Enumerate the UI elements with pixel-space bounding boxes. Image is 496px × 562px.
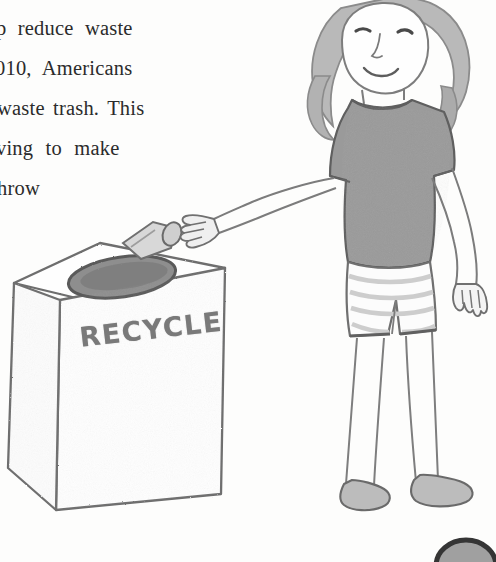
right-hand-fingers: [462, 290, 480, 308]
can-body: [123, 222, 176, 259]
corner-partial-circle: [436, 540, 496, 562]
bin-opening: [66, 250, 179, 305]
shirt-hem: [348, 262, 430, 268]
shirt-texture: [342, 104, 451, 268]
bin-top-face: [14, 243, 225, 315]
bin-paper-grain: [8, 268, 225, 510]
bin-front-face: [56, 268, 225, 510]
girl-legs: [346, 332, 438, 486]
text-line-5: hrow: [0, 168, 215, 208]
shorts-hem-left: [350, 334, 390, 336]
shorts-crotch-split: [392, 300, 396, 334]
nose: [372, 34, 382, 58]
right-hand: [453, 284, 487, 316]
mouth-smile: [364, 68, 398, 76]
book-page-scan: p reduce waste 010, Americans waste tras…: [0, 0, 496, 562]
left-eye: [356, 29, 370, 31]
recycle-bin: [8, 243, 225, 510]
girl-shirt: [330, 100, 455, 268]
shirt-body: [330, 100, 455, 268]
text-line-2: 010, Americans: [0, 48, 215, 88]
shirt-collar: [352, 100, 412, 109]
face-shape: [342, 3, 428, 93]
shirt-sleeve-left-cuff: [330, 176, 350, 182]
left-hand-fingers: [184, 222, 206, 241]
bin-left-face: [8, 283, 60, 510]
neck: [362, 88, 404, 104]
can-rim: [159, 220, 185, 249]
right-eye: [398, 30, 412, 33]
left-arm-outline: [214, 178, 336, 233]
hair-back: [312, 0, 469, 130]
left-leg: [346, 338, 384, 486]
text-line-4: ving to make: [0, 128, 215, 168]
girl-right-arm: [432, 168, 487, 316]
hair-part-line: [372, 12, 386, 66]
recycle-bin-label: RECYCLE: [78, 306, 221, 353]
right-arm-outline: [432, 168, 477, 286]
body-text-block: p reduce waste 010, Americans waste tras…: [0, 8, 215, 208]
shirt-sleeve-right-cuff: [434, 170, 454, 176]
left-hand: [181, 215, 219, 247]
thrown-can: [123, 220, 185, 259]
shorts-stripes: [349, 276, 435, 332]
girl-face: [342, 3, 428, 93]
girl-hair: [307, 0, 469, 145]
text-line-3: waste trash. This: [0, 88, 215, 128]
can-highlight: [131, 230, 155, 247]
girl-shorts: [347, 262, 436, 336]
shorts-shape: [347, 262, 436, 336]
left-shoe: [340, 480, 390, 510]
right-leg: [406, 332, 438, 482]
hair-left-wave: [307, 76, 334, 140]
text-line-1: p reduce waste: [0, 8, 215, 48]
girl-figure: [181, 0, 488, 510]
girl-shoes: [340, 475, 472, 510]
bin-opening-inner-shade: [79, 257, 170, 295]
shorts-hem-right: [400, 330, 436, 334]
right-shoe: [411, 475, 472, 507]
hair-right-wave: [420, 86, 457, 145]
